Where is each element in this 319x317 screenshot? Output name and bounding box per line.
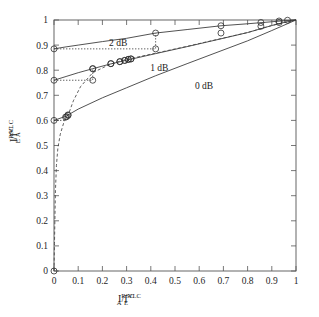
y-tick-label-6: 0.6 [36, 116, 48, 126]
x-axis-label-sup2: VLC [128, 292, 141, 299]
x-tick-label-3: 0.3 [121, 276, 133, 286]
y-tick-label-3: 0.3 [36, 191, 48, 201]
x-tick-label-6: 0.6 [193, 276, 205, 286]
x-axis-label-sub2: E [124, 299, 128, 306]
y-tick-label-4: 0.4 [36, 166, 48, 176]
y-tick-label-1: 0.1 [36, 241, 48, 251]
x-tick-label-7: 0.7 [217, 276, 229, 286]
x-tick-label-1: 0.1 [72, 276, 84, 286]
y-tick-label-2: 0.2 [36, 216, 48, 226]
x-tick-label-10: 1 [294, 276, 299, 286]
x-tick-label-8: 0.8 [242, 276, 254, 286]
exit-chart-figure: 00.10.20.30.40.50.60.70.80.9100.10.20.30… [0, 0, 319, 317]
x-axis-label: IRSCA/IVLCE [118, 292, 128, 306]
plot-frame [54, 20, 296, 271]
y-axis-label-sub1: E [14, 139, 21, 143]
annotation-0-dB: 0 dB [195, 81, 213, 91]
y-tick-label-8: 0.8 [36, 66, 48, 76]
x-tick-label-9: 0.9 [266, 276, 278, 286]
y-axis-label-sub2: A [14, 132, 21, 137]
exit-chart-svg: 00.10.20.30.40.50.60.70.80.9100.10.20.30… [0, 0, 319, 317]
annotation-1-dB: 1 dB [150, 63, 168, 73]
y-tick-label-0: 0 [43, 266, 48, 276]
y-tick-label-5: 0.5 [36, 141, 48, 151]
x-tick-label-0: 0 [52, 276, 57, 286]
y-tick-label-7: 0.7 [36, 91, 48, 101]
x-tick-label-5: 0.5 [169, 276, 181, 286]
y-axis-label-sup2: VLC [7, 120, 14, 133]
annotation-2-dB: 2 dB [109, 38, 127, 48]
y-tick-label-10: 1 [43, 15, 48, 25]
y-tick-label-9: 0.9 [36, 41, 48, 51]
x-tick-label-2: 0.2 [96, 276, 108, 286]
x-tick-label-4: 0.4 [145, 276, 157, 286]
y-axis-label: IRSCE/IVLCA [7, 92, 21, 182]
